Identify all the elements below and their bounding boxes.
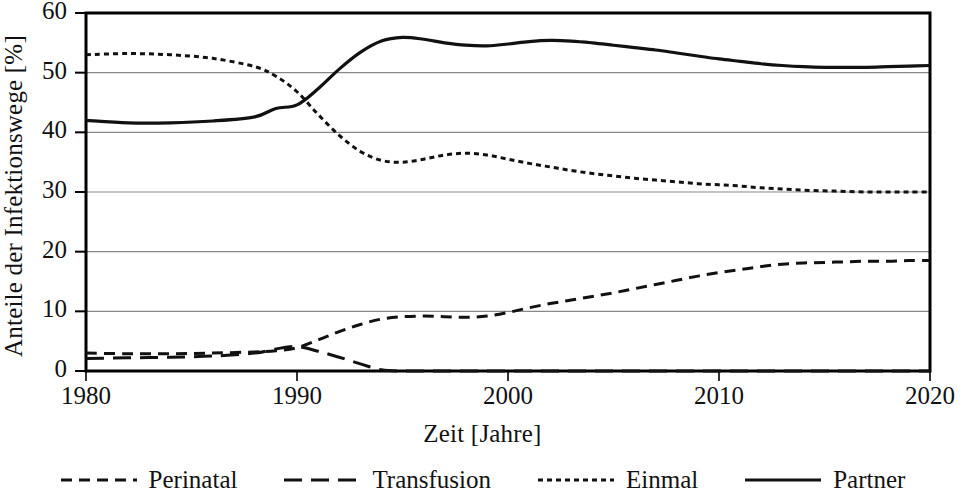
- legend-swatch-long-dashed-icon: [283, 473, 361, 487]
- legend-swatch-solid-icon: [744, 473, 822, 487]
- x-axis-title: Zeit [Jahre]: [423, 420, 541, 448]
- series-line-einmal: [86, 54, 930, 192]
- legend-label: Transfusion: [372, 466, 491, 494]
- x-tick-label-1980: 1980: [26, 382, 146, 410]
- legend-item-partner[interactable]: Partner: [744, 466, 905, 494]
- y-tick-label-20: 20: [7, 236, 67, 264]
- legend-label: Einmal: [626, 466, 698, 494]
- legend-item-transfusion[interactable]: Transfusion: [283, 466, 491, 494]
- y-tick-label-50: 50: [7, 57, 67, 85]
- series-line-partner: [86, 37, 930, 123]
- chart-figure: Anteile der Infektionswege [%] Zeit [Jah…: [0, 0, 965, 502]
- legend-item-einmal[interactable]: Einmal: [537, 466, 698, 494]
- y-tick-marks: [75, 13, 86, 371]
- data-series: [86, 37, 930, 371]
- series-line-transfusion: [86, 346, 930, 371]
- chart-legend: PerinatalTransfusionEinmalPartner: [0, 466, 965, 494]
- gridlines: [86, 73, 930, 312]
- y-tick-label-10: 10: [7, 295, 67, 323]
- y-tick-label-60: 60: [7, 0, 67, 25]
- y-tick-label-0: 0: [7, 355, 67, 383]
- legend-label: Partner: [833, 466, 905, 494]
- x-tick-label-2010: 2010: [659, 382, 779, 410]
- legend-item-perinatal[interactable]: Perinatal: [60, 466, 238, 494]
- legend-swatch-dashed-icon: [60, 473, 138, 487]
- x-tick-label-2020: 2020: [870, 382, 965, 410]
- y-tick-label-30: 30: [7, 176, 67, 204]
- y-tick-label-40: 40: [7, 116, 67, 144]
- legend-label: Perinatal: [149, 466, 238, 494]
- x-axis-title-wrap: Zeit [Jahre]: [0, 420, 965, 448]
- x-tick-label-2000: 2000: [448, 382, 568, 410]
- series-line-perinatal: [86, 261, 930, 354]
- x-tick-label-1990: 1990: [237, 382, 357, 410]
- legend-swatch-dotted-icon: [537, 473, 615, 487]
